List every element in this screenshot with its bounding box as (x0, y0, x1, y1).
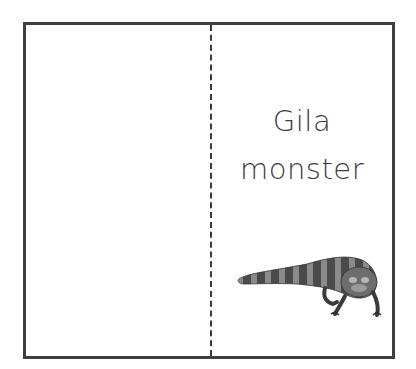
title-line-1: Gila (212, 97, 392, 145)
gila-monster-icon (237, 246, 382, 318)
folded-card: Gila monster (23, 22, 395, 359)
card-title: Gila monster (212, 97, 392, 193)
card-right-panel: Gila monster (212, 25, 392, 356)
card-left-panel (26, 25, 210, 356)
title-line-2: monster (212, 145, 392, 193)
